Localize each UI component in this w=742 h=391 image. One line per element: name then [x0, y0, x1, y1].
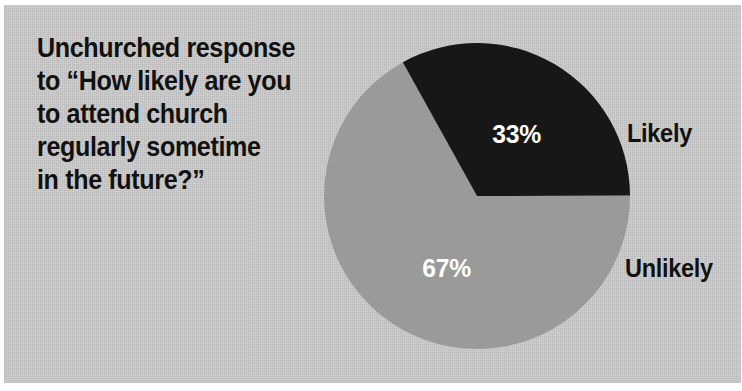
pie-slice-unlikely-value-label: 67%	[422, 253, 471, 284]
chart-background-plate: Unchurched response to “How likely are y…	[4, 5, 741, 383]
pie-slice-unlikely-category-label: Unlikely	[625, 254, 713, 283]
pie-chart-svg	[4, 5, 741, 383]
pie-slice-likely-value-label: 33%	[492, 119, 541, 150]
pie-slice-likely-category-label: Likely	[627, 119, 692, 148]
pie-chart: 33% 67% Likely Unlikely	[4, 5, 741, 383]
pie-chart-figure: Unchurched response to “How likely are y…	[0, 0, 742, 391]
